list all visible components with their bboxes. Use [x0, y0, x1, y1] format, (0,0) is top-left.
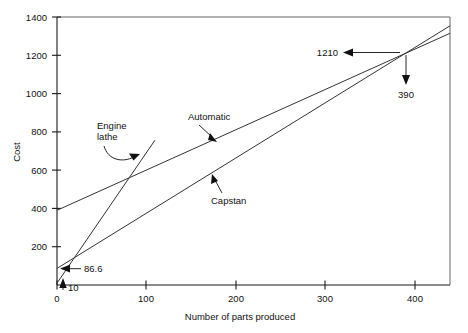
y-tick-label-1400: 1400: [26, 12, 47, 23]
annotation-capstan-intercept-label: 86.6: [84, 263, 103, 274]
annotation-intersection-cost-label: 1210: [317, 47, 338, 58]
y-tick-label-200: 200: [31, 241, 47, 252]
series-label-automatic: Automatic: [188, 111, 230, 122]
annotation-engine-lathe-intercept-label: 10: [68, 282, 79, 293]
series-label-engine-lathe-line1: Engine: [97, 120, 127, 131]
x-tick-label-300: 300: [317, 293, 333, 304]
x-tick-label-400: 400: [407, 293, 423, 304]
series-label-capstan: Capstan: [211, 195, 246, 206]
y-tick-label-800: 800: [31, 126, 47, 137]
x-axis-title: Number of parts produced: [185, 311, 295, 322]
annotation-intersection-quantity-label: 390: [398, 89, 414, 100]
x-tick-label-200: 200: [228, 293, 244, 304]
series-label-engine-lathe-line2: lathe: [97, 131, 118, 142]
y-tick-label-1000: 1000: [26, 88, 47, 99]
y-tick-label-400: 400: [31, 203, 47, 214]
y-tick-label-1200: 1200: [26, 50, 47, 61]
x-tick-label-100: 100: [138, 293, 154, 304]
y-axis-title: Cost: [11, 142, 22, 162]
cost-vs-quantity-chart: 1400 1200 1000 800 600 400 200 0 100 200…: [0, 0, 468, 333]
y-tick-label-600: 600: [31, 165, 47, 176]
x-tick-label-0: 0: [54, 293, 59, 304]
